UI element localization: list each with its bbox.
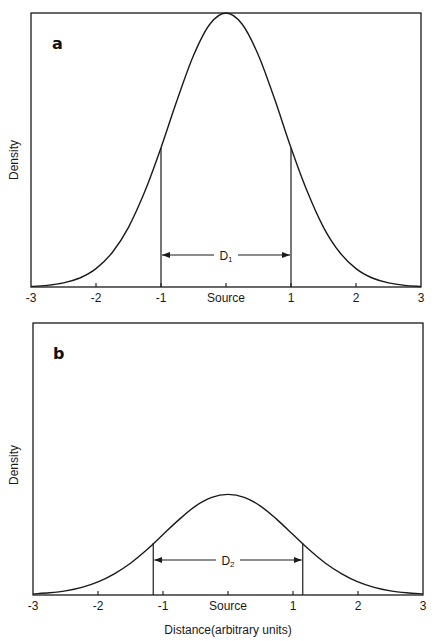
x-tick-label: 2 (353, 291, 360, 305)
x-tick-label: 3 (420, 599, 427, 613)
panel-b: b Density -3-2-1Source123 D2 Distance(ar… (7, 323, 427, 637)
x-tick-label: -3 (26, 291, 37, 305)
x-tick-label: -1 (156, 291, 167, 305)
x-tick-label: 1 (288, 291, 295, 305)
x-tick-label: -1 (158, 599, 169, 613)
x-tick-label: -2 (91, 291, 102, 305)
x-tick-label: 3 (418, 291, 425, 305)
x-axis-label-b: Distance(arbitrary units) (164, 623, 291, 637)
x-tick-label: 1 (290, 599, 297, 613)
x-tick-label: Source (207, 291, 245, 305)
x-axis-ticks-b: -3-2-1Source123 (28, 591, 427, 613)
x-tick-label: 2 (355, 599, 362, 613)
x-tick-label: -2 (93, 599, 104, 613)
y-axis-label-b: Density (7, 445, 21, 485)
panel-a: a Density -3-2-1Source123 D1 (7, 13, 425, 305)
x-tick-label: -3 (28, 599, 39, 613)
density-curve-b (33, 494, 423, 594)
plot-frame-a (31, 13, 421, 287)
d1-label: D1 (219, 249, 233, 264)
d2-label: D2 (221, 554, 235, 569)
density-curve-a (31, 13, 421, 287)
x-axis-ticks-a: -3-2-1Source123 (26, 283, 425, 305)
panel-letter-a: a (52, 34, 63, 53)
x-tick-label: Source (209, 599, 247, 613)
figure: a Density -3-2-1Source123 D1 b Density -… (0, 0, 436, 641)
y-axis-label-a: Density (7, 140, 21, 180)
panel-letter-b: b (53, 344, 64, 363)
